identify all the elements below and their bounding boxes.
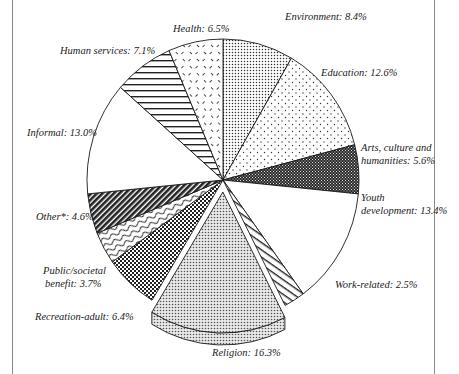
label-arts-line1: Arts, culture and — [361, 141, 431, 154]
label-informal: Informal: 13.0% — [27, 126, 97, 139]
label-health: Health: 6.5% — [173, 22, 230, 35]
pie-slices — [87, 39, 359, 333]
label-youth-line2: development: 13.4% — [361, 204, 447, 217]
label-work-related: Work-related: 2.5% — [335, 278, 418, 291]
label-youth-line1: Youth — [361, 191, 385, 204]
label-other: Other*: 4.6% — [36, 210, 94, 223]
label-education: Education: 12.6% — [321, 66, 397, 79]
label-public-line1: Public/societal — [43, 264, 106, 277]
label-arts-line2: humanities: 5.6% — [361, 154, 435, 167]
label-environment: Environment: 8.4% — [285, 10, 367, 23]
label-public-line2: benefit: 3.7% — [45, 277, 102, 290]
label-human-services: Human services: 7.1% — [60, 44, 155, 57]
label-religion: Religion: 16.3% — [212, 346, 281, 359]
label-recreation-adult: Recreation-adult: 6.4% — [35, 310, 134, 323]
